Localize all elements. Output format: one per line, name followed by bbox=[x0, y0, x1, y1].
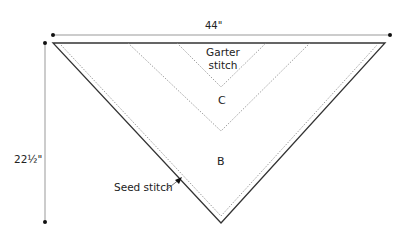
section-c-label: C bbox=[218, 95, 226, 107]
height-dimension-line bbox=[43, 41, 47, 224]
width-label: 44" bbox=[205, 20, 222, 32]
section-b-label: B bbox=[217, 156, 225, 168]
garter-label-line2: stitch bbox=[201, 59, 245, 72]
shawl-schematic bbox=[0, 0, 411, 244]
garter-label-line1: Garter bbox=[201, 46, 245, 59]
height-label: 22½" bbox=[14, 153, 42, 165]
garter-stitch-label: Garter stitch bbox=[201, 46, 245, 72]
width-dimension-line bbox=[51, 33, 392, 37]
seed-stitch-label: Seed stitch bbox=[114, 181, 173, 193]
